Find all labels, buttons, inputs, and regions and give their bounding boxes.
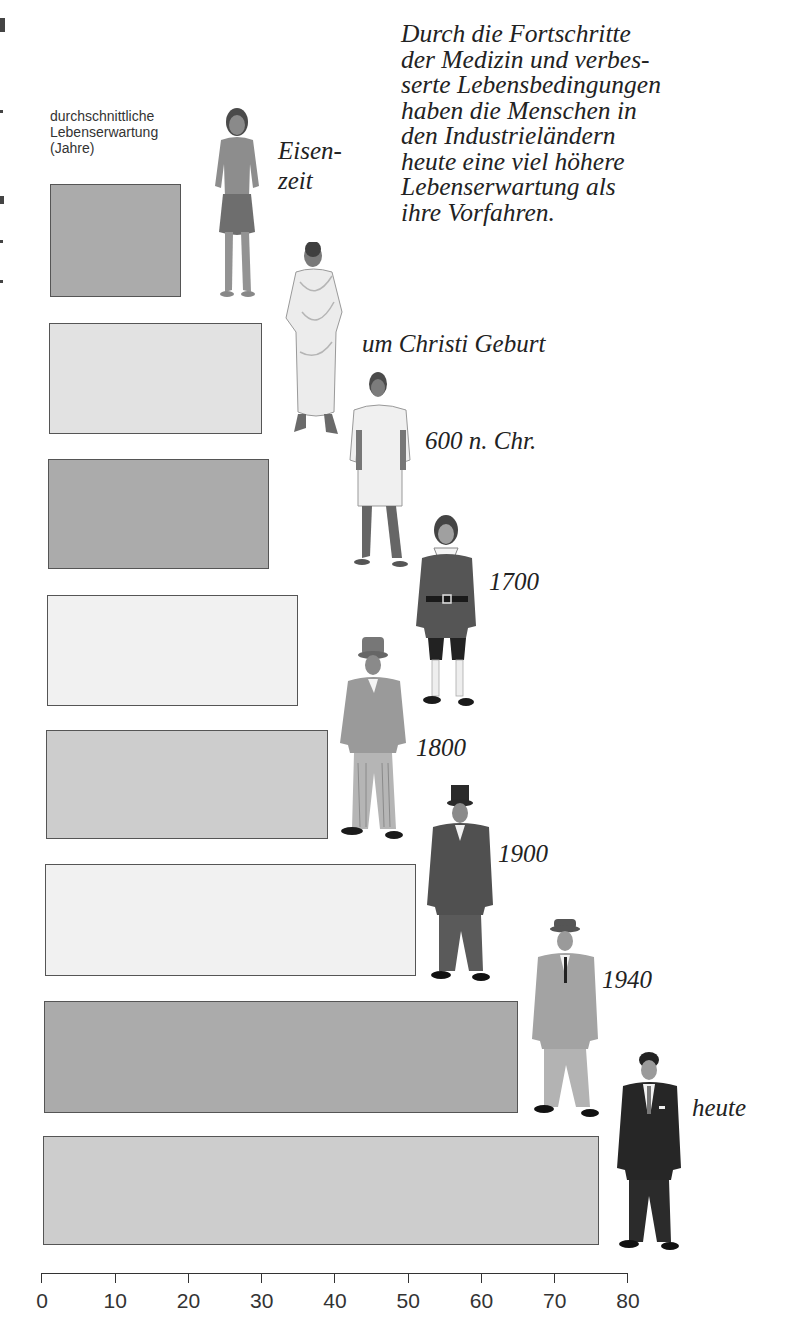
x-axis-tick <box>188 1273 189 1283</box>
x-axis-tick <box>554 1273 555 1283</box>
era-label-eisenzeit: Eisen- zeit <box>278 136 342 196</box>
y-axis-label-line: Lebenserwartung <box>50 124 210 140</box>
x-axis-tick <box>481 1273 482 1283</box>
modern-suit-man-icon <box>615 1048 685 1252</box>
x-axis-tick-label: 60 <box>470 1289 493 1313</box>
era-label-1700: 1700 <box>489 568 539 595</box>
x-axis-tick-label: 50 <box>397 1289 420 1313</box>
page-edge-fragment <box>0 18 5 32</box>
x-axis-tick <box>41 1273 42 1283</box>
x-axis-tick-label: 40 <box>323 1289 346 1313</box>
page-edge-fragment <box>0 280 3 283</box>
y-axis-label-line: durchschnittliche <box>50 108 210 124</box>
bar-1800 <box>46 730 328 839</box>
intro-line: haben die Menschen in <box>401 98 791 124</box>
x-axis-tick-label: 80 <box>616 1289 639 1313</box>
era-label-1900: 1900 <box>498 840 548 867</box>
x-axis-tick-label: 70 <box>543 1289 566 1313</box>
19th-century-man-icon <box>338 633 410 845</box>
era-label-1800: 1800 <box>416 734 466 761</box>
x-axis-tick <box>115 1273 116 1283</box>
era-label-heute: heute <box>692 1094 746 1121</box>
intro-line: der Medizin und verbes- <box>401 47 791 73</box>
bar-eisenzeit <box>50 184 181 297</box>
page-edge-fragment <box>0 110 3 113</box>
intro-line: Durch die Fortschritte <box>401 21 791 47</box>
x-axis-tick-label: 0 <box>36 1289 48 1313</box>
x-axis-tick-label: 30 <box>250 1289 273 1313</box>
era-label-600: 600 n. Chr. <box>425 427 536 454</box>
bar-christi-geburt <box>49 323 262 434</box>
x-axis-tick-label: 20 <box>177 1289 200 1313</box>
era-label-1940: 1940 <box>602 966 652 993</box>
intro-line: den Industrieländern <box>401 123 791 149</box>
x-axis-tick <box>334 1273 335 1283</box>
tunic-man-icon <box>348 370 416 574</box>
iron-age-man-icon <box>203 106 271 300</box>
top-hat-man-icon <box>425 783 495 985</box>
y-axis-label: durchschnittliche Lebenserwartung (Jahre… <box>50 108 210 156</box>
18th-century-man-icon <box>414 514 482 710</box>
intro-paragraph: Durch die Fortschritte der Medizin und v… <box>401 21 791 225</box>
intro-line: heute eine viel höhere <box>401 149 791 175</box>
x-axis-tick <box>627 1273 628 1283</box>
bar-1940 <box>44 1001 518 1113</box>
x-axis-tick-label: 10 <box>104 1289 127 1313</box>
y-axis-label-line: (Jahre) <box>50 140 210 156</box>
intro-line: serte Lebensbedingungen <box>401 72 791 98</box>
bar-heute <box>43 1136 599 1245</box>
intro-line: Lebenserwartung als <box>401 174 791 200</box>
bar-1900 <box>45 864 416 976</box>
fedora-man-icon <box>530 915 602 1121</box>
x-axis-tick <box>261 1273 262 1283</box>
intro-line: ihre Vorfahren. <box>401 200 791 226</box>
roman-toga-man-icon <box>282 242 348 442</box>
era-label-christi-geburt: um Christi Geburt <box>362 330 545 357</box>
bar-600-n-chr <box>48 459 269 569</box>
page-edge-fragment <box>0 196 4 204</box>
x-axis-tick <box>408 1273 409 1283</box>
bar-1700 <box>47 595 298 706</box>
page-edge-fragment <box>0 240 3 243</box>
